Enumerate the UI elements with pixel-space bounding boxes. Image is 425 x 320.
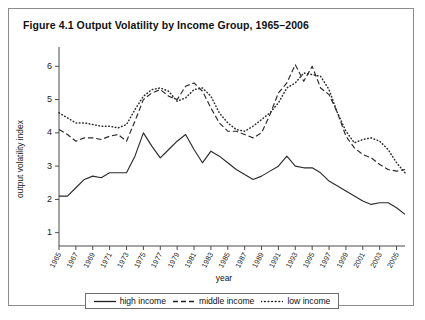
x-tick-label: 2003 bbox=[368, 251, 384, 270]
x-axis-label: year bbox=[216, 273, 233, 283]
legend-label-low-income: low income bbox=[287, 296, 330, 306]
x-tick-label: 1983 bbox=[199, 251, 215, 270]
x-tick-label: 1997 bbox=[318, 251, 334, 270]
x-tick-label: 2005 bbox=[385, 251, 401, 270]
y-tick-label: 1 bbox=[47, 227, 52, 237]
x-tick-label: 1977 bbox=[149, 251, 165, 270]
x-tick-label: 1971 bbox=[98, 251, 114, 270]
x-tick-label: 1993 bbox=[284, 251, 300, 270]
x-tick-label: 1985 bbox=[216, 251, 232, 270]
x-tick-label: 1981 bbox=[183, 251, 199, 270]
x-axis-ticks: 1965196719691971197319751977197919811983… bbox=[48, 246, 401, 269]
x-tick-label: 1975 bbox=[132, 251, 148, 270]
x-tick-label: 1965 bbox=[48, 251, 64, 270]
legend-item-low-income: low income bbox=[261, 296, 330, 306]
x-tick-label: 1987 bbox=[233, 251, 249, 270]
x-tick-label: 1973 bbox=[115, 251, 131, 270]
series-line-middle-income bbox=[59, 65, 405, 171]
x-tick-label: 1999 bbox=[335, 251, 351, 270]
y-tick-label: 2 bbox=[47, 194, 52, 204]
x-tick-label: 1995 bbox=[301, 251, 317, 270]
legend-swatch-dashed bbox=[173, 298, 195, 305]
legend-item-high-income: high income bbox=[94, 296, 166, 306]
y-axis-label: output volatility index bbox=[15, 119, 25, 198]
x-tick-label: 1969 bbox=[81, 251, 97, 270]
page-title: Figure 4.1 Output Volatility by Income G… bbox=[23, 19, 309, 31]
y-tick-label: 3 bbox=[47, 161, 52, 171]
x-tick-label: 2001 bbox=[351, 251, 367, 270]
chart-series bbox=[59, 65, 405, 215]
chart-plot-area: 123456 196519671969197119731975197719791… bbox=[9, 35, 415, 297]
y-axis-ticks: 123456 bbox=[47, 61, 59, 237]
figure-card: Figure 4.1 Output Volatility by Income G… bbox=[8, 8, 414, 306]
x-tick-label: 1979 bbox=[166, 251, 182, 270]
legend-label-middle-income: middle income bbox=[199, 296, 254, 306]
series-line-high-income bbox=[59, 133, 405, 215]
x-tick-label: 1989 bbox=[250, 251, 266, 270]
legend-swatch-dotted bbox=[261, 298, 283, 305]
x-tick-label: 1967 bbox=[64, 251, 80, 270]
series-line-low-income bbox=[59, 73, 405, 173]
y-tick-label: 5 bbox=[47, 94, 52, 104]
chart-legend: high income middle income low income bbox=[85, 293, 339, 309]
legend-item-middle-income: middle income bbox=[173, 296, 254, 306]
legend-label-high-income: high income bbox=[120, 296, 166, 306]
y-tick-label: 4 bbox=[47, 127, 52, 137]
line-chart: 123456 196519671969197119731975197719791… bbox=[9, 35, 415, 297]
x-tick-label: 1991 bbox=[267, 251, 283, 270]
legend-swatch-solid bbox=[94, 298, 116, 305]
y-tick-label: 6 bbox=[47, 61, 52, 71]
